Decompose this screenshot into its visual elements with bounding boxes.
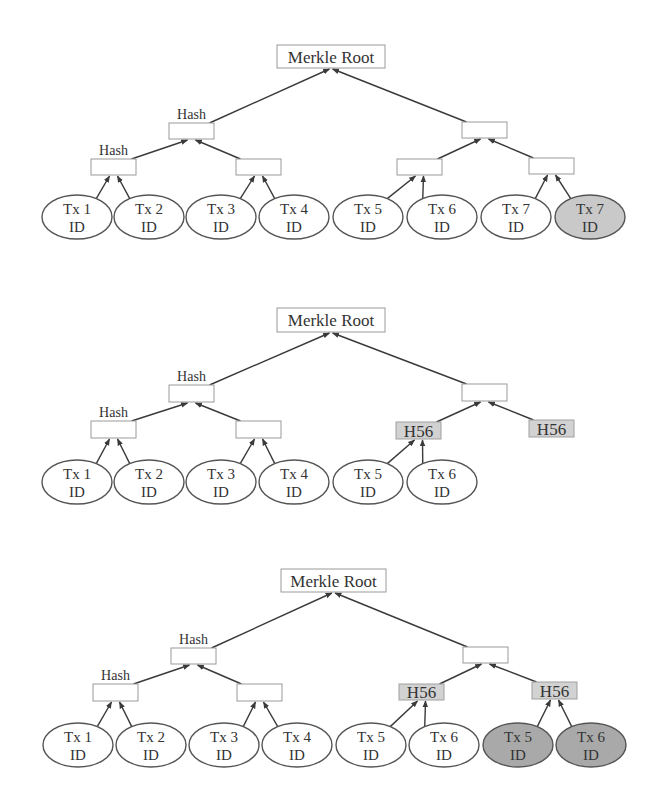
transaction-leaf: Tx 1ID [42,460,112,504]
leaf-id-label: ID [286,219,302,235]
hash-box [169,123,214,139]
leaf-tx-label: Tx 6 [430,729,458,745]
leaf-tx-label: Tx 4 [280,201,308,217]
edge-arrow [423,176,424,199]
leaf-id-label: ID [70,747,86,763]
leaf-id-label: ID [363,747,379,763]
leaf-tx-label: Tx 5 [354,201,382,217]
edge-arrow [198,665,242,684]
leaf-tx-label: Tx 5 [357,729,385,745]
leaf-id-label: ID [583,747,599,763]
diagrams-container: Merkle RootHashHashTx 1IDTx 2IDTx 3IDTx … [42,45,626,767]
leaf-tx-label: Tx 1 [63,466,91,482]
leaf-tx-label: Tx 4 [280,466,308,482]
edge-arrow [335,593,467,647]
edge-arrow [134,665,190,684]
merkle-tree-figure: Merkle RootHashHashTx 1IDTx 2IDTx 3IDTx … [0,0,663,803]
edge-arrow [212,593,332,648]
hash-node [462,384,507,401]
hash-box-label: H56 [404,422,433,441]
transaction-leaf: Tx 5ID [333,195,403,239]
transaction-leaf: Tx 1ID [42,195,112,239]
hash-caption: Hash [177,107,206,122]
merkle-tree-duplicated-leaves: Merkle RootHashHashH56H56Tx 1IDTx 2IDTx … [43,569,626,767]
edge-arrow [118,176,130,199]
edge-arrow [489,139,534,158]
hash-node [236,421,281,438]
hash-caption: Hash [99,405,128,420]
hash-box [236,421,281,438]
hash-node: Hash [171,632,216,664]
merkle-root-label: Merkle Root [288,48,375,67]
hash-node: Hash [93,668,138,701]
hash-node [236,159,281,175]
leaf-id-label: ID [141,219,157,235]
edge-arrow [264,702,278,727]
hash-box-label: H56 [537,420,566,439]
edge-arrow [556,175,571,199]
leaf-id-label: ID [510,747,526,763]
leaf-tx-label: Tx 2 [135,201,163,217]
edge-arrow [243,702,255,727]
transaction-leaf: Tx 3ID [186,460,256,504]
hash-node: Hash [169,107,214,139]
hash-caption: Hash [177,369,206,384]
edge-arrow [263,176,275,199]
edge-arrow [440,664,482,684]
edge-arrow [333,333,467,384]
transaction-leaf: Tx 4ID [262,723,332,767]
transaction-leaf: Tx 5ID [336,723,406,767]
merkle-root-label: Merkle Root [288,311,375,330]
leaf-tx-label: Tx 5 [504,729,532,745]
transaction-leaf: Tx 3ID [186,195,256,239]
hash-box-label: H56 [407,683,436,702]
hash-caption: Hash [99,143,128,158]
hash-box [91,421,136,438]
transaction-leaf: Tx 1ID [43,723,113,767]
hash-node: Hash [91,405,136,438]
leaf-id-label: ID [582,219,598,235]
leaf-id-label: ID [143,747,159,763]
leaf-id-label: ID [289,747,305,763]
edge-arrow [240,176,254,199]
edge-arrow [387,440,414,464]
leaf-tx-label: Tx 1 [64,729,92,745]
hash-node [529,158,574,174]
hash-box [93,684,138,701]
hash-node [463,647,508,663]
leaf-tx-label: Tx 3 [210,729,238,745]
leaf-tx-label: Tx 7 [502,201,530,217]
leaf-id-label: ID [434,219,450,235]
leaf-tx-label: Tx 3 [207,466,235,482]
edge-arrow [425,701,426,727]
transaction-leaf: Tx 6ID [409,723,479,767]
hash-node: H56 [532,682,577,701]
leaf-tx-label: Tx 2 [137,729,165,745]
edge-arrow [438,139,481,159]
leaf-id-label: ID [69,484,85,500]
edge-arrow [118,439,130,464]
hash-box [397,159,442,175]
hash-box [529,158,574,174]
transaction-leaf: Tx 6ID [407,195,477,239]
edge-arrow [437,402,481,422]
hash-box [463,647,508,663]
edge-arrow [390,701,417,727]
leaf-id-label: ID [360,484,376,500]
leaf-tx-label: Tx 2 [135,466,163,482]
leaf-id-label: ID [434,484,450,500]
leaf-id-label: ID [286,484,302,500]
hash-node: Hash [91,143,136,175]
leaf-tx-label: Tx 6 [428,201,456,217]
hash-box [169,385,214,402]
hash-node: H56 [396,422,441,441]
hash-caption: Hash [179,632,208,647]
edge-arrow [120,702,132,727]
transaction-leaf: Tx 6ID [556,723,626,767]
leaf-id-label: ID [141,484,157,500]
edge-arrow [210,69,330,123]
leaf-tx-label: Tx 3 [207,201,235,217]
hash-node: H56 [529,420,574,439]
merkle-root-node: Merkle Root [277,308,385,332]
edge-arrow [535,175,547,199]
